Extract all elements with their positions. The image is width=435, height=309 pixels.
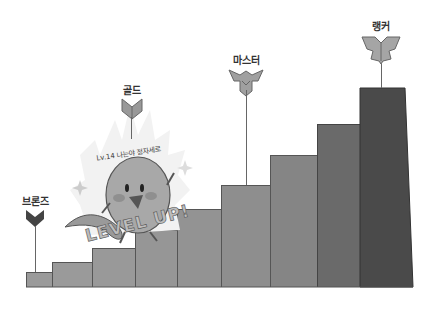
pole-ranker [381, 64, 382, 88]
rank-gold: 골드 [118, 82, 146, 125]
rank-label-gold: 골드 [118, 82, 146, 97]
pole-bronze [35, 226, 36, 272]
ranker-emblem-icon [361, 33, 401, 67]
pole-gold [131, 117, 132, 139]
bronze-emblem-icon [25, 208, 45, 228]
pole-master [246, 90, 247, 185]
rank-staircase-diagram: Lv.14 나는야 정자세로 LEVEL UP! 브론즈 골드 마스터 랭커 [0, 0, 435, 309]
rank-label-master: 마스터 [222, 52, 270, 67]
rank-label-ranker: 랭커 [358, 18, 404, 33]
rank-label-bronze: 브론즈 [22, 193, 48, 208]
gold-emblem-icon [121, 97, 143, 121]
